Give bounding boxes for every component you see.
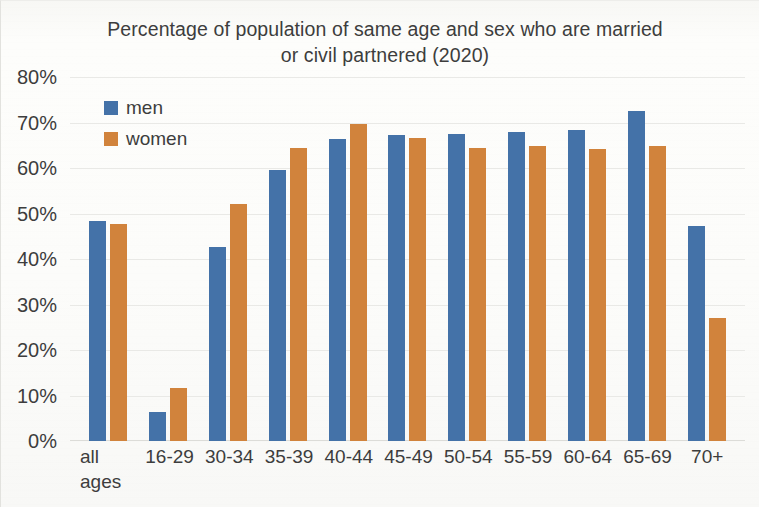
bar-women	[589, 149, 606, 441]
legend-swatch-icon	[104, 132, 118, 146]
bar-women	[469, 148, 486, 441]
bar-men	[269, 170, 286, 441]
bar-men	[329, 139, 346, 441]
chart-title-line-2: or civil partnered (2020)	[55, 42, 715, 68]
x-axis-tick-label: all ages	[78, 444, 140, 494]
bar-men	[149, 412, 166, 441]
y-axis-tick-label: 20%	[0, 339, 57, 362]
legend-item-women: women	[104, 129, 187, 148]
bar-women	[290, 148, 307, 441]
bar-group	[258, 77, 318, 441]
x-axis-tick-label: 55-59	[498, 444, 558, 494]
x-axis-tick-labels: all ages16-2930-3435-3940-4445-4950-5455…	[70, 444, 745, 494]
y-axis-tick-label: 60%	[0, 157, 57, 180]
y-axis-tick-label: 70%	[0, 111, 57, 134]
bar-group	[557, 77, 617, 441]
bar-group	[378, 77, 438, 441]
legend-swatch-icon	[104, 101, 118, 115]
bar-group	[617, 77, 677, 441]
bar-women	[649, 146, 666, 441]
x-axis-tick-label: 65-69	[618, 444, 678, 494]
bar-men	[688, 226, 705, 441]
bar-women	[409, 138, 426, 441]
bar-women	[350, 124, 367, 441]
bar-men	[89, 221, 106, 441]
x-axis-tick-label: 70+	[677, 444, 737, 494]
legend-label: men	[126, 98, 163, 117]
x-axis-tick-label: 40-44	[319, 444, 379, 494]
bar-women	[110, 224, 127, 441]
chart-title: Percentage of population of same age and…	[55, 16, 715, 68]
legend-item-men: men	[104, 98, 187, 117]
y-axis-tick-label: 30%	[0, 293, 57, 316]
y-axis-tick-label: 40%	[0, 248, 57, 271]
bar-group	[497, 77, 557, 441]
chart-title-line-1: Percentage of population of same age and…	[107, 18, 663, 40]
bar-men	[448, 134, 465, 441]
legend-label: women	[126, 129, 187, 148]
bar-group	[318, 77, 378, 441]
bar-group	[198, 77, 258, 441]
bar-women	[230, 204, 247, 441]
x-axis-tick-label: 30-34	[199, 444, 259, 494]
bar-men	[388, 135, 405, 441]
x-axis-tick-label: 16-29	[140, 444, 200, 494]
bar-group	[677, 77, 737, 441]
bar-women	[170, 388, 187, 441]
y-axis-tick-label: 0%	[0, 430, 57, 453]
bar-men	[628, 111, 645, 441]
x-axis-tick-label: 50-54	[438, 444, 498, 494]
bar-men	[209, 247, 226, 441]
chart-legend: menwomen	[104, 98, 187, 160]
x-axis-tick-label: 45-49	[379, 444, 439, 494]
bar-women	[709, 318, 726, 441]
y-axis-tick-label: 80%	[0, 66, 57, 89]
bar-group	[437, 77, 497, 441]
y-axis-tick-label: 50%	[0, 202, 57, 225]
bar-women	[529, 146, 546, 441]
bar-men	[508, 132, 525, 441]
y-axis-tick-label: 10%	[0, 384, 57, 407]
x-axis-tick-label: 60-64	[558, 444, 618, 494]
x-axis-tick-label: 35-39	[259, 444, 319, 494]
bar-men	[568, 130, 585, 441]
